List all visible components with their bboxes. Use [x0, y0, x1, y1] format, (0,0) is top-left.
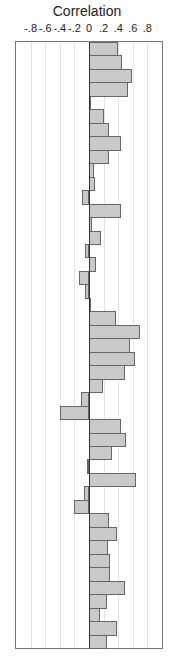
- bar: [89, 433, 126, 447]
- x-tick-label: -.8: [24, 22, 37, 34]
- bar: [89, 69, 132, 83]
- bar: [82, 190, 89, 204]
- bar: [60, 406, 89, 420]
- bar: [89, 527, 117, 541]
- bar: [89, 419, 121, 433]
- x-tick-label: .6: [128, 22, 137, 34]
- bar: [89, 82, 128, 96]
- bar: [89, 567, 110, 581]
- gridline: [74, 42, 75, 648]
- x-tick-label: -.6: [39, 22, 52, 34]
- gridline: [60, 42, 61, 648]
- bar: [89, 136, 121, 150]
- gridline: [45, 42, 46, 648]
- bar: [89, 311, 116, 325]
- x-tick-label: .2: [99, 22, 108, 34]
- bar: [89, 379, 103, 393]
- bar: [89, 581, 125, 595]
- bar: [79, 271, 89, 285]
- x-tick-label: 0: [86, 22, 92, 34]
- bar: [89, 365, 125, 379]
- x-tick-label: .8: [143, 22, 152, 34]
- x-tick-label: -.4: [53, 22, 66, 34]
- bar: [89, 621, 117, 635]
- bar: [89, 123, 109, 137]
- bar: [89, 55, 122, 69]
- chart-title: Correlation: [0, 3, 174, 19]
- bar: [74, 500, 89, 514]
- gridline: [133, 42, 134, 648]
- bar: [89, 594, 107, 608]
- gridline: [31, 42, 32, 648]
- bar: [89, 204, 121, 218]
- bar: [89, 608, 100, 622]
- x-tick-label: .4: [114, 22, 123, 34]
- bar: [89, 513, 109, 527]
- x-tick-label: -.2: [68, 22, 81, 34]
- bar: [89, 231, 101, 245]
- bar: [89, 109, 104, 123]
- bar: [89, 446, 112, 460]
- bar: [89, 540, 108, 554]
- bar: [89, 42, 118, 56]
- bar: [89, 338, 130, 352]
- bar: [89, 473, 136, 487]
- bar: [81, 392, 89, 406]
- gridline: [147, 42, 148, 648]
- zero-line: [89, 42, 90, 648]
- bar: [89, 554, 110, 568]
- plot-area: [15, 41, 163, 649]
- bar: [89, 352, 135, 366]
- bar: [89, 150, 109, 164]
- bar: [89, 325, 140, 339]
- bar: [89, 635, 107, 649]
